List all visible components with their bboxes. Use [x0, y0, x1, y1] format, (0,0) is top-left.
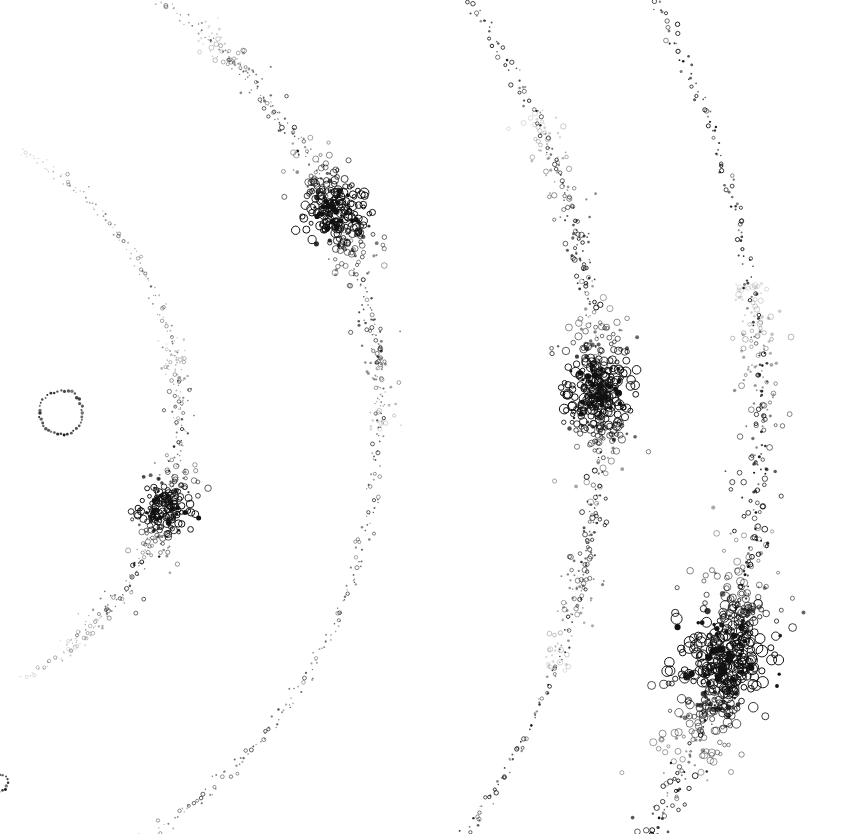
scatter-plot-canvas [0, 0, 859, 834]
figure-root: Four nested arcs of small circles center… [0, 0, 859, 834]
